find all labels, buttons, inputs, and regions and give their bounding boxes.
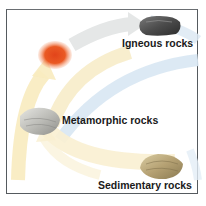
magma-icon <box>38 41 72 69</box>
igneous-rocks-label: Igneous rocks <box>122 37 193 49</box>
rock-cycle-arrows <box>0 0 206 206</box>
metamorphic-rocks-label: Metamorphic rocks <box>62 114 158 126</box>
igneous-rock-icon <box>139 16 180 36</box>
sedimentary-rocks-label: Sedimentary rocks <box>98 179 192 191</box>
